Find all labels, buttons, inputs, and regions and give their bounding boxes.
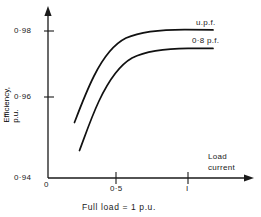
- y-axis-title: Efficiency, p.u.: [2, 87, 20, 123]
- pf08-curve: [80, 48, 214, 150]
- y-axis-arrowhead: [44, 6, 51, 16]
- y-axis-title-wrapper: Efficiency, p.u.: [4, 60, 18, 150]
- x-axis-title-line2: current: [208, 164, 235, 172]
- y-tick-label-098: 0·98: [14, 27, 31, 35]
- x-axis-arrowhead: [244, 174, 254, 181]
- upf-curve-label: u.p.f.: [196, 19, 216, 27]
- x-origin-label: 0: [44, 181, 49, 189]
- x-tick-label-1: I: [186, 185, 189, 193]
- plot-canvas: [0, 0, 261, 217]
- figure-caption: Full load = 1 p.u.: [82, 203, 156, 212]
- pf08-curve-label: 0·8 p.f.: [192, 37, 219, 45]
- efficiency-chart-figure: 0·98 0·96 0·94 Efficiency, p.u. 0 0·5 I …: [0, 0, 261, 217]
- y-axis-group: [44, 6, 54, 178]
- x-tick-label-05: 0·5: [110, 185, 122, 193]
- x-axis-group: [48, 172, 254, 184]
- x-axis-title-line1: Load: [208, 153, 227, 161]
- y-tick-label-094: 0·94: [14, 174, 31, 182]
